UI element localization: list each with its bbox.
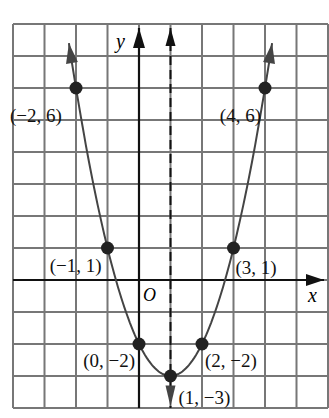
point-label: (1, −3) [179, 387, 231, 409]
point-label: (4, 6) [220, 105, 261, 127]
point-label: (2, −2) [205, 350, 257, 372]
point-label: (−1, 1) [50, 255, 102, 277]
data-point [259, 82, 272, 95]
data-point [164, 370, 177, 383]
data-point [227, 242, 240, 255]
data-point [70, 82, 83, 95]
origin-label: O [143, 285, 156, 305]
axes [13, 28, 324, 408]
x-axis-label: x [307, 284, 317, 306]
y-axis-label: y [114, 30, 125, 53]
point-label: (−2, 6) [10, 105, 62, 127]
axis-of-symmetry [166, 28, 176, 408]
point-label: (0, −2) [83, 350, 135, 372]
data-point [101, 242, 114, 255]
point-labels: (−2, 6)(−1, 1)(0, −2)(1, −3)(2, −2)(3, 1… [10, 105, 277, 409]
data-point [133, 338, 146, 351]
point-label: (3, 1) [236, 257, 277, 279]
data-point [196, 338, 209, 351]
parabola-chart: (−2, 6)(−1, 1)(0, −2)(1, −3)(2, −2)(3, 1… [0, 0, 329, 418]
